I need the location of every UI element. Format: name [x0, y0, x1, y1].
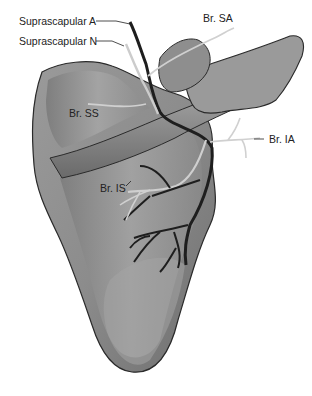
label-branch-sa: Br. SA [203, 12, 233, 24]
scapula-illustration [0, 0, 312, 396]
label-branch-is: Br. IS [100, 182, 126, 194]
label-branch-ia: Br. IA [269, 133, 295, 145]
label-suprascapular-artery: Suprascapular A [19, 15, 96, 27]
label-branch-ss: Br. SS [69, 107, 99, 119]
scapula-diagram: Suprascapular A Suprascapular N Br. SA B… [0, 0, 312, 396]
label-suprascapular-nerve: Suprascapular N [19, 35, 97, 47]
branch-ia [210, 118, 260, 158]
